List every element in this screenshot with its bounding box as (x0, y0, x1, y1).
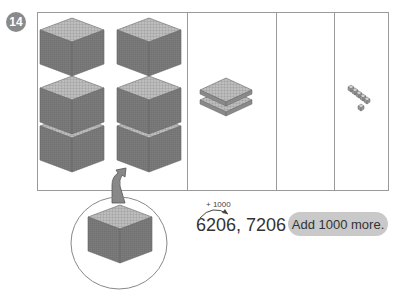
hundred-flats (200, 78, 252, 116)
up-arrow-icon (112, 168, 126, 203)
number-sequence: 6206, 7206 (196, 215, 286, 236)
added-thousand-cube (88, 205, 152, 263)
unit-cubes (348, 85, 370, 111)
thousand-cube-stack-1 (40, 18, 104, 172)
thousand-cube-stack-2 (117, 18, 181, 172)
hint-pill: Add 1000 more. (288, 212, 388, 236)
plus-label: + 1000 (206, 200, 231, 209)
blocks-illustration (0, 0, 400, 294)
